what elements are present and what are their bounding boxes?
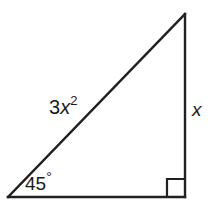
angle-label: 45° bbox=[25, 174, 52, 193]
hypotenuse-line bbox=[8, 14, 185, 197]
hypotenuse-variable: x bbox=[60, 96, 70, 118]
vertical-leg-label: x bbox=[192, 100, 202, 119]
hypotenuse-coefficient: 3 bbox=[49, 96, 60, 118]
hypotenuse-label: 3x2 bbox=[49, 97, 77, 117]
right-angle-marker-icon bbox=[167, 179, 185, 197]
degree-symbol-icon: ° bbox=[46, 169, 52, 185]
geometry-figure: 3x2 x 45° bbox=[0, 0, 216, 209]
hypotenuse-exponent: 2 bbox=[70, 93, 77, 108]
angle-value: 45 bbox=[25, 173, 46, 194]
